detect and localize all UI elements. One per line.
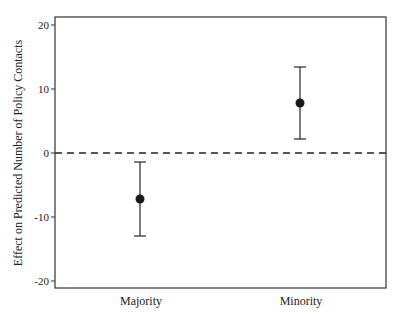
x-tick-label-minority: Minority [280,294,323,308]
y-axis: 20 10 0 -10 -20 [34,19,55,287]
y-tick-label: -10 [34,211,49,223]
majority-estimate [134,162,146,236]
point-estimate [136,195,145,204]
chart-canvas: 20 10 0 -10 -20 Effect on Predicted Numb… [0,0,401,314]
y-axis-title: Effect on Predicted Number of Policy Con… [11,39,25,266]
y-tick-label: 20 [38,19,50,31]
y-tick-label: 0 [44,147,50,159]
y-tick-label: -20 [34,275,49,287]
x-tick-label-majority: Majority [120,294,162,308]
y-tick-label: 10 [38,83,50,95]
minority-estimate [294,67,306,139]
point-estimate [296,99,305,108]
